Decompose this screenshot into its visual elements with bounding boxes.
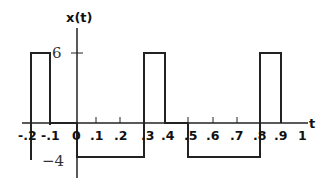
svg-text:-.2: -.2: [18, 128, 37, 143]
y-axis-label: x(t): [66, 10, 92, 25]
signal-plot: x(t) t 6 −4 -.2 -.1 0 .1 .2 .3 .4 .5 .6 …: [0, 0, 331, 185]
svg-text:.4: .4: [161, 128, 175, 143]
svg-text:.5: .5: [184, 128, 197, 143]
svg-text:0: 0: [72, 128, 81, 143]
y-tick-label-neg4: −4: [42, 152, 64, 170]
svg-text:1: 1: [298, 128, 307, 143]
x-axis-label: t: [309, 116, 315, 131]
svg-text:.7: .7: [230, 128, 243, 143]
y-tick-label-6: 6: [52, 44, 62, 62]
svg-text:.6: .6: [206, 128, 220, 143]
svg-text:.8: .8: [253, 128, 266, 143]
svg-text:.2: .2: [114, 128, 127, 143]
svg-text:.1: .1: [90, 128, 103, 143]
svg-text:-.1: -.1: [41, 128, 60, 143]
x-tick-labels: -.2 -.1 0 .1 .2 .3 .4 .5 .6 .7 .8 .9 1: [18, 128, 307, 143]
svg-text:.9: .9: [274, 128, 287, 143]
svg-text:.3: .3: [141, 128, 154, 143]
signal-waveform: [31, 53, 281, 160]
